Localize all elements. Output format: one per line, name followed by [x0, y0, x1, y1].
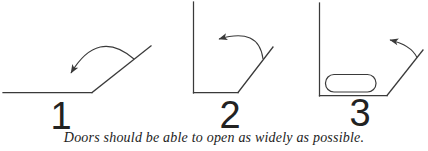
door-swing-arrow: [219, 36, 263, 59]
door-leaf-line: [238, 47, 273, 93]
figure-3-door-restricted: 3: [320, 3, 424, 134]
door-leaf-line: [387, 50, 423, 96]
door-opening-figure: 1 2 3 Doors should be able to open as wi…: [0, 0, 428, 151]
figure-caption: Doors should be able to open as widely a…: [0, 130, 428, 146]
door-swing-arrow: [71, 46, 134, 73]
figure-number-label: 3: [349, 92, 370, 134]
door-leaf-line: [92, 46, 151, 93]
figure-2-door-open-past-90: 2: [194, 2, 274, 136]
figure-1-door-open-flat: 1: [3, 46, 151, 137]
obstruction-radiator-box: [326, 75, 377, 93]
door-diagrams-canvas: 1 2 3: [0, 0, 428, 151]
door-swing-arrow: [390, 40, 417, 58]
